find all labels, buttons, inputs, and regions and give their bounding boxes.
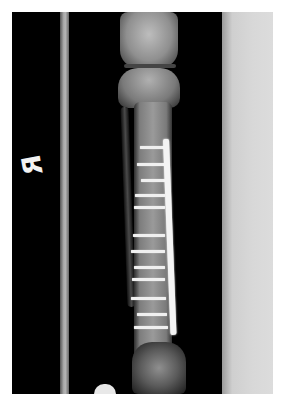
bone-screw <box>137 163 165 166</box>
bone-screw <box>134 266 165 269</box>
bone-screw <box>134 206 165 209</box>
bone-screw <box>133 234 165 237</box>
bone-screw <box>131 250 165 253</box>
bone-screw <box>132 278 165 281</box>
bone-screw <box>134 326 168 329</box>
bottom-marker <box>94 384 116 394</box>
cassette-edge-ruler <box>60 12 69 394</box>
xray-image: R <box>12 12 273 394</box>
bone-screw <box>137 313 167 316</box>
bone-screw <box>135 194 165 197</box>
bone-screw <box>141 179 165 182</box>
unexposed-panel <box>222 12 273 394</box>
bone-screw <box>140 146 165 149</box>
distal-tibia <box>132 342 186 394</box>
bone-screw <box>131 297 166 300</box>
distal-femur <box>120 12 178 68</box>
side-marker: R <box>17 153 46 177</box>
